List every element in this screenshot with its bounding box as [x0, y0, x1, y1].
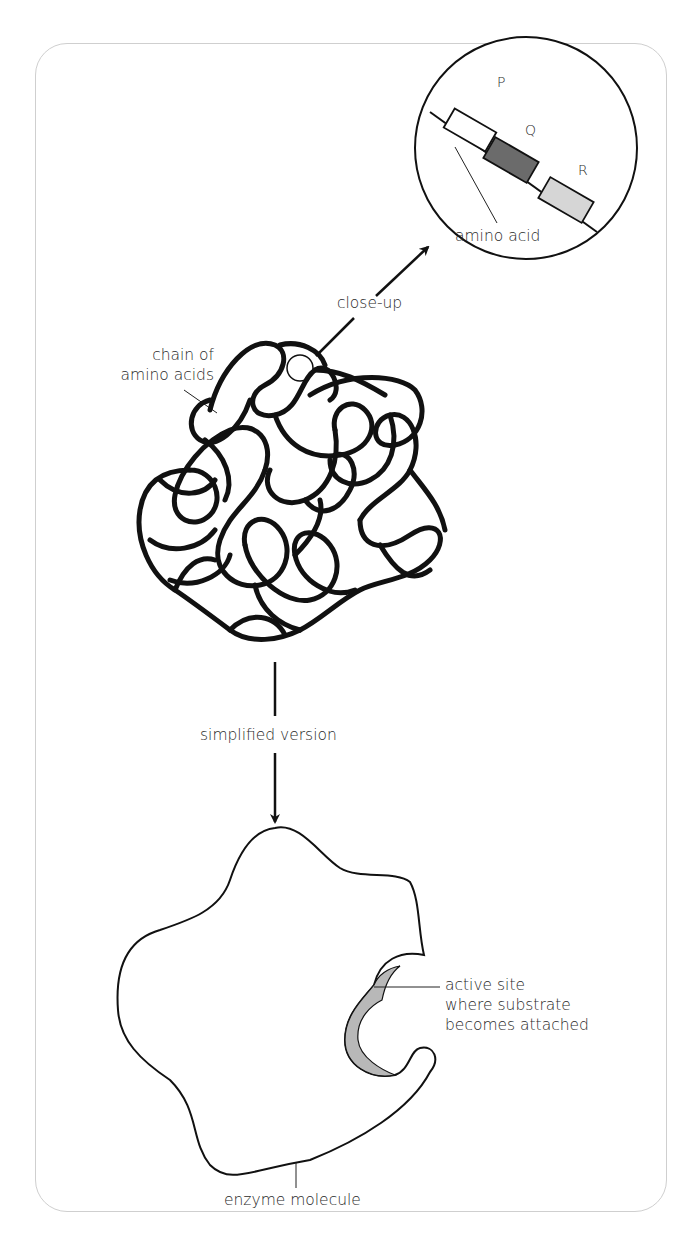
label-q: Q — [525, 120, 536, 140]
diagram-canvas — [0, 0, 688, 1247]
label-p: P — [497, 72, 505, 92]
label-chain-of-amino-acids: chain of amino acids — [112, 345, 214, 385]
label-simplified-version: simplified version — [200, 725, 337, 745]
enzyme-molecule-shape — [117, 827, 435, 1175]
label-enzyme-molecule: enzyme molecule — [224, 1190, 361, 1210]
label-close-up: close-up — [337, 293, 402, 313]
label-amino-acid: amino acid — [455, 226, 540, 246]
amino-acid-chain-tangle — [139, 343, 445, 639]
label-r: R — [578, 160, 588, 180]
label-active-site: active site where substrate becomes atta… — [445, 975, 589, 1035]
